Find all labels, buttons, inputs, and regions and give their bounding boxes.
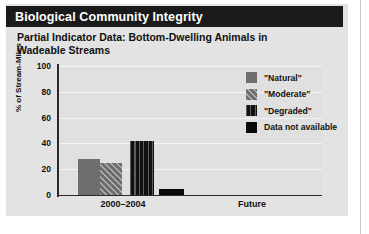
y-tick-80: 80 [25, 87, 51, 97]
x-tick-future: Future [197, 199, 307, 209]
page-title: Biological Community Integrity [6, 10, 203, 24]
legend-label: Data not available [264, 122, 337, 132]
chart-legend: "Natural" "Moderate" "Degraded" Data not… [246, 71, 356, 137]
legend-item-data-not-available: Data not available [246, 121, 356, 135]
legend-label: "Natural" [264, 73, 302, 83]
page-divider-rule [360, 0, 361, 234]
diagonal-hatch-swatch-icon [246, 89, 257, 100]
bar-moderate [100, 163, 122, 195]
screenshot-root: Biological Community Integrity Partial I… [0, 0, 369, 234]
solid-black-swatch-icon [246, 122, 257, 133]
legend-item-natural: "Natural" [246, 71, 356, 85]
x-tick-2000-2004: 2000–2004 [63, 199, 183, 209]
vertical-stripe-swatch-icon [246, 105, 257, 116]
y-tick-0: 0 [25, 190, 51, 200]
legend-label: "Degraded" [264, 106, 312, 116]
y-axis-line [57, 64, 59, 197]
legend-item-moderate: "Moderate" [246, 88, 356, 102]
bar-natural [78, 159, 100, 195]
solid-gray-swatch-icon [246, 72, 257, 83]
y-tick-20: 20 [25, 164, 51, 174]
bar-degraded [130, 141, 154, 195]
x-axis-line [58, 195, 322, 196]
y-tick-40: 40 [25, 138, 51, 148]
legend-label: "Moderate" [264, 89, 310, 99]
panel-title-bar: Biological Community Integrity [6, 6, 343, 27]
y-tick-60: 60 [25, 113, 51, 123]
legend-item-degraded: "Degraded" [246, 104, 356, 118]
y-tick-100: 100 [25, 61, 51, 71]
chart-subtitle: Partial Indicator Data: Bottom-Dwelling … [17, 31, 297, 57]
y-axis-label: % of Stream-Miles [14, 43, 23, 112]
